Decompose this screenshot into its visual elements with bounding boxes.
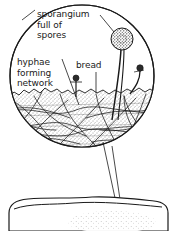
leader-sporangium-tick <box>22 10 35 20</box>
label-bread: bread <box>76 60 101 71</box>
label-sporangium: sporangium full of spores <box>37 9 90 41</box>
bread-slice <box>9 197 168 231</box>
label-hyphae: hyphae forming network <box>17 57 53 89</box>
bread-mass <box>10 88 155 150</box>
